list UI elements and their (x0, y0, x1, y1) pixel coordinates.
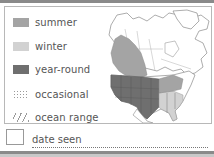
legend-item-year-round: year-round (13, 62, 90, 76)
occasional-dots-icon (13, 90, 29, 99)
winter-range (159, 91, 183, 121)
legend-item-winter: winter (13, 39, 67, 53)
range-map-card: summer winter year-round occasional ocea… (4, 6, 212, 124)
bottom-border-shadow (0, 154, 214, 157)
top-border (0, 0, 214, 3)
legend-label: ocean range (35, 112, 99, 123)
legend-label: year-round (35, 64, 90, 75)
legend-label: occasional (35, 89, 89, 100)
legend-item-ocean-range: ocean range (13, 110, 99, 124)
summer-swatch-icon (13, 18, 29, 27)
year-round-swatch-icon (13, 65, 29, 74)
legend-item-summer: summer (13, 15, 77, 29)
legend-item-occasional: occasional (13, 87, 89, 101)
legend-label: winter (35, 41, 67, 52)
winter-swatch-icon (13, 42, 29, 51)
date-seen-label: date seen (32, 134, 82, 145)
date-seen-checkbox[interactable] (6, 129, 24, 145)
date-seen-line[interactable] (32, 147, 208, 148)
ocean-range-hatch-icon (13, 113, 29, 122)
legend-label: summer (35, 17, 77, 28)
range-map (103, 9, 213, 123)
